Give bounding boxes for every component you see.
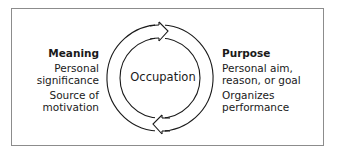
meaning-item: Source of motivation [37,89,99,113]
purpose-item-line: reason, or goal [222,74,301,86]
meaning-item-line: Personal [37,62,99,74]
meaning-item-line: Source of [37,89,99,101]
purpose-item-line: Organizes [222,89,301,101]
purpose-title: Purpose [222,47,301,59]
purpose-item: Personal aim, reason, or goal [222,62,301,86]
meaning-item-line: motivation [37,101,99,113]
meaning-item-line: significance [37,74,99,86]
meaning-item: Personal significance [37,62,99,86]
meaning-title: Meaning [37,47,99,59]
center-label: Occupation [123,70,203,84]
purpose-item-line: Personal aim, [222,62,301,74]
arrow-bottom-icon [153,115,170,134]
purpose-item: Organizes performance [222,89,301,113]
purpose-item-line: performance [222,101,301,113]
meaning-column: Meaning Personal significance Source of … [37,47,99,116]
purpose-column: Purpose Personal aim, reason, or goal Or… [222,47,301,116]
